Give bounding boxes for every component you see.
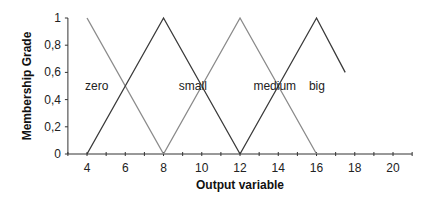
x-tick-label: 20 xyxy=(386,161,400,175)
x-tick-label: 16 xyxy=(310,161,324,175)
axes: 00,20,40,60,81468101214161820 xyxy=(44,11,412,175)
membership-chart: 00,20,40,60,81468101214161820 zerosmallm… xyxy=(0,0,431,201)
y-tick-label: 0 xyxy=(54,147,61,161)
label-big: big xyxy=(309,79,325,93)
x-tick-label: 18 xyxy=(348,161,362,175)
x-axis-title: Output variable xyxy=(196,178,284,192)
x-tick-label: 14 xyxy=(272,161,286,175)
x-tick-label: 8 xyxy=(160,161,167,175)
label-small: small xyxy=(179,79,207,93)
y-axis-title: Membership Grade xyxy=(20,31,34,140)
y-tick-label: 1 xyxy=(54,11,61,25)
label-medium: medium xyxy=(253,79,296,93)
series-lines xyxy=(87,18,345,154)
y-tick-label: 0,4 xyxy=(44,93,61,107)
label-zero: zero xyxy=(85,79,109,93)
x-tick-label: 4 xyxy=(84,161,91,175)
x-tick-label: 10 xyxy=(195,161,209,175)
y-tick-label: 0,2 xyxy=(44,120,61,134)
y-tick-label: 0,6 xyxy=(44,65,61,79)
series-small xyxy=(87,18,240,154)
y-tick-label: 0,8 xyxy=(44,38,61,52)
set-labels: zerosmallmediumbig xyxy=(85,79,325,93)
x-tick-label: 12 xyxy=(233,161,247,175)
x-tick-label: 6 xyxy=(122,161,129,175)
